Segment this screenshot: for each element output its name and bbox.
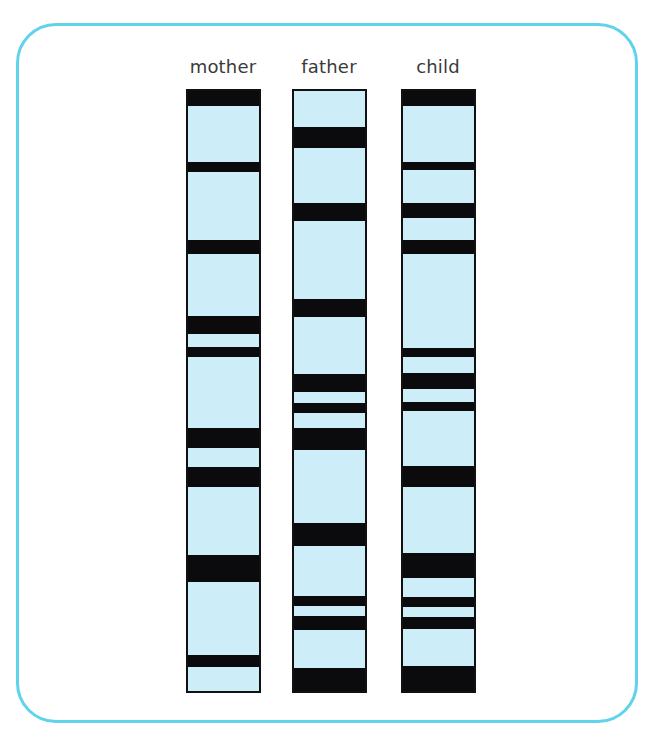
dna-band	[188, 555, 259, 582]
dna-band	[188, 428, 259, 448]
dna-band	[294, 616, 365, 630]
dna-band	[403, 203, 474, 218]
dna-band	[294, 203, 365, 221]
dna-band	[403, 466, 474, 487]
dna-band	[403, 89, 474, 106]
dna-band	[403, 240, 474, 254]
dna-band	[403, 553, 474, 578]
dna-band	[188, 467, 259, 487]
dna-band	[403, 597, 474, 607]
dna-band	[294, 403, 365, 413]
dna-band	[188, 347, 259, 357]
lane-label-mother: mother	[168, 56, 278, 77]
dna-band	[294, 596, 365, 606]
dna-band	[188, 89, 259, 106]
gel-lane-mother	[186, 89, 261, 693]
lane-label-father: father	[274, 56, 384, 77]
lane-label-child: child	[383, 56, 493, 77]
dna-band	[294, 523, 365, 546]
gel-lane-child	[401, 89, 476, 693]
dna-band	[294, 299, 365, 317]
dna-band	[403, 617, 474, 629]
dna-band	[294, 428, 365, 450]
dna-band	[403, 666, 474, 693]
dna-band	[188, 655, 259, 667]
dna-band	[294, 668, 365, 693]
dna-band	[188, 240, 259, 254]
dna-band	[403, 402, 474, 411]
dna-band	[294, 127, 365, 148]
gel-lane-father	[292, 89, 367, 693]
dna-band	[188, 162, 259, 172]
dna-band	[188, 316, 259, 334]
dna-band	[294, 374, 365, 392]
dna-band	[403, 162, 474, 170]
dna-band	[403, 348, 474, 357]
dna-band	[403, 373, 474, 389]
